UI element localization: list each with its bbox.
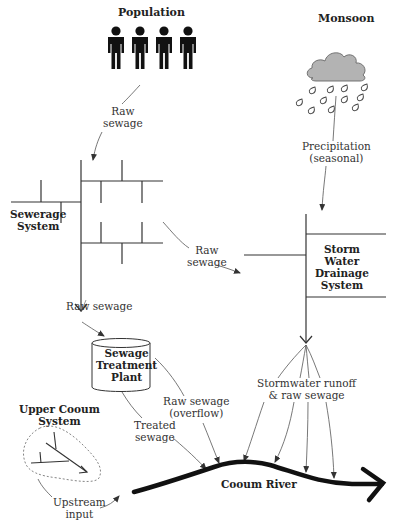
arrow-sewer-to-storm-top — [163, 222, 189, 248]
sewerage-system-label: Sewerage System — [10, 208, 66, 232]
storm-drainage-label: Storm Water Drainage System — [315, 243, 369, 291]
arrow-treated-to-river — [172, 437, 206, 469]
arrow-pop-to-sewer — [93, 132, 102, 160]
stp-label: Sewage Treatment Plant — [96, 347, 157, 383]
arrow-sewer-to-stp — [82, 322, 104, 336]
sewerage-network — [11, 160, 163, 311]
arrow-precip-top — [333, 96, 336, 141]
sewer-to-stp-label: Raw sewage — [66, 300, 133, 312]
arrow-overflow-top — [155, 358, 184, 396]
upper-cooum-tributaries — [31, 432, 87, 473]
pop-raw-sewage-label: Raw sewage — [103, 105, 143, 129]
cooum-river-label: Cooum River — [221, 478, 297, 490]
arrow-overflow-to-river — [203, 423, 219, 463]
arrow-precip-to-storm — [322, 166, 326, 210]
monsoon-label: Monsoon — [318, 13, 374, 25]
cloud-icon — [307, 53, 365, 81]
arrow-pop-to-sewer-top — [122, 85, 140, 104]
population-label: Population — [118, 7, 185, 19]
runoff-arrows — [244, 345, 334, 478]
sewer-to-storm-label: Raw sewage — [187, 244, 227, 268]
runoff-label: Stormwater runoff & raw sewage — [257, 377, 356, 401]
overflow-label: Raw sewage (overflow) — [163, 395, 230, 419]
treated-sewage-label: Treated sewage — [134, 419, 176, 443]
population-icon — [108, 26, 196, 69]
rain-drops-icon — [295, 82, 368, 114]
diagram-canvas: Population Monsoon Raw sewage Precipitat… — [0, 0, 396, 526]
upstream-input-label: Upstream input — [53, 496, 106, 520]
precipitation-label: Precipitation (seasonal) — [302, 140, 371, 164]
upper-cooum-label: Upper Cooum System — [19, 403, 100, 427]
arrow-treated-top — [122, 392, 142, 418]
